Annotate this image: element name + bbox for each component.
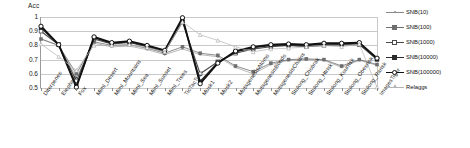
legend-item[interactable]: SNB(10) <box>386 6 428 18</box>
y-axis-tick-label: 0.8 <box>16 41 38 48</box>
legend-label: SNB(1000) <box>406 39 435 45</box>
legend-item[interactable]: SNB(1000) <box>386 36 435 48</box>
legend-label: SNB(10000) <box>406 54 438 60</box>
y-axis-tick-label: 0.5 <box>16 84 38 91</box>
y-axis-tick-label: 0.6 <box>16 70 38 77</box>
legend-label: SNB(10) <box>406 9 428 15</box>
chart-figure: Acc 10.90.80.70.60.5 DiterpenesElephantF… <box>0 0 470 148</box>
legend-item[interactable]: Relaggs <box>386 81 427 93</box>
legend-label: Relaggs <box>406 84 427 90</box>
legend-swatch-icon <box>386 37 404 47</box>
legend-item[interactable]: SNB(10000) <box>386 51 438 63</box>
legend-item[interactable]: SNB(100) <box>386 21 431 33</box>
plot-area <box>40 17 378 88</box>
legend-swatch-icon <box>386 67 404 77</box>
series-snb10000 <box>39 17 379 88</box>
y-axis-tick-label: 0.9 <box>16 27 38 34</box>
y-axis-tick-labels: 10.90.80.70.60.5 <box>12 17 38 88</box>
series-lines <box>40 17 378 88</box>
legend-swatch-icon <box>386 7 404 17</box>
series-snb100000 <box>39 16 379 90</box>
legend-swatch-icon <box>386 22 404 32</box>
y-axis-title: Acc <box>28 2 39 9</box>
legend-swatch-icon <box>386 82 404 92</box>
y-axis-tick-label: 1 <box>16 13 38 20</box>
legend-item[interactable]: SNB(100000) <box>386 66 441 78</box>
legend-label: SNB(100000) <box>406 69 441 75</box>
legend-label: SNB(100) <box>406 24 431 30</box>
x-axis-tick-labels: DiterpenesElephantFoxMiml_DesertMiml_Mou… <box>0 91 400 148</box>
legend-swatch-icon <box>386 52 404 62</box>
chart-legend: SNB(10)SNB(100)SNB(1000)SNB(10000)SNB(10… <box>386 6 470 98</box>
y-axis-tick-label: 0.7 <box>16 56 38 63</box>
